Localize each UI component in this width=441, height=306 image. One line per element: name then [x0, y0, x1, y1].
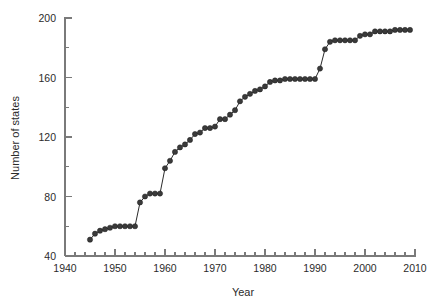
data-point — [257, 87, 262, 92]
data-series-markers — [87, 27, 412, 242]
data-point — [87, 237, 92, 242]
y-tick-label: 200 — [38, 12, 56, 24]
data-point — [137, 200, 142, 205]
data-point — [132, 224, 137, 229]
data-point — [322, 47, 327, 52]
data-series-line — [90, 30, 410, 240]
chart-container: 19401950196019701980199020002010 4080120… — [0, 0, 441, 306]
data-point — [277, 78, 282, 83]
data-point — [222, 117, 227, 122]
data-point — [302, 76, 307, 81]
data-point — [252, 88, 257, 93]
data-point — [102, 227, 107, 232]
x-tick-label: 1950 — [103, 262, 127, 274]
data-point — [312, 76, 317, 81]
data-point — [212, 124, 217, 129]
x-tick-label: 1940 — [53, 262, 77, 274]
x-tick-label: 1990 — [303, 262, 327, 274]
data-point — [92, 231, 97, 236]
data-point — [267, 79, 272, 84]
y-axis-title: Number of states — [9, 96, 21, 180]
data-point — [292, 76, 297, 81]
x-tick-label: 2000 — [353, 262, 377, 274]
x-axis-tick-labels: 19401950196019701980199020002010 — [53, 262, 427, 274]
data-point — [337, 38, 342, 43]
data-point — [197, 130, 202, 135]
data-point — [347, 38, 352, 43]
y-axis-ticks — [65, 18, 72, 256]
data-point — [217, 117, 222, 122]
data-point — [152, 191, 157, 196]
data-point — [237, 99, 242, 104]
data-point — [127, 224, 132, 229]
data-point — [247, 91, 252, 96]
data-point — [357, 33, 362, 38]
data-point — [377, 29, 382, 34]
x-axis-title: Year — [232, 286, 255, 298]
data-point — [192, 131, 197, 136]
y-tick-label: 80 — [44, 191, 56, 203]
data-point — [402, 27, 407, 32]
data-point — [372, 29, 377, 34]
data-point — [262, 84, 267, 89]
data-point — [297, 76, 302, 81]
series-line-path — [90, 30, 410, 240]
x-tick-label: 1970 — [203, 262, 227, 274]
chart-axes — [65, 17, 416, 256]
data-point — [282, 76, 287, 81]
data-point — [342, 38, 347, 43]
data-point — [182, 142, 187, 147]
data-point — [407, 27, 412, 32]
data-point — [122, 224, 127, 229]
data-point — [107, 225, 112, 230]
data-point — [397, 27, 402, 32]
data-point — [187, 137, 192, 142]
data-point — [242, 94, 247, 99]
x-axis-ticks — [65, 249, 415, 256]
data-point — [367, 32, 372, 37]
y-tick-label: 120 — [38, 131, 56, 143]
x-tick-label: 1960 — [153, 262, 177, 274]
data-point — [177, 145, 182, 150]
line-chart: 19401950196019701980199020002010 4080120… — [0, 0, 441, 306]
data-point — [317, 66, 322, 71]
data-point — [382, 29, 387, 34]
data-point — [142, 194, 147, 199]
data-point — [232, 108, 237, 113]
data-point — [162, 166, 167, 171]
y-tick-label: 160 — [38, 72, 56, 84]
data-point — [207, 125, 212, 130]
data-point — [392, 27, 397, 32]
data-point — [112, 224, 117, 229]
y-tick-label: 40 — [44, 250, 56, 262]
y-axis-tick-labels: 4080120160200 — [38, 12, 56, 262]
data-point — [147, 191, 152, 196]
data-point — [332, 38, 337, 43]
data-point — [272, 78, 277, 83]
data-point — [362, 32, 367, 37]
data-point — [352, 38, 357, 43]
data-point — [327, 39, 332, 44]
data-point — [117, 224, 122, 229]
data-point — [287, 76, 292, 81]
data-point — [157, 191, 162, 196]
data-point — [167, 158, 172, 163]
x-tick-label: 2010 — [403, 262, 427, 274]
data-point — [202, 125, 207, 130]
data-point — [172, 149, 177, 154]
x-tick-label: 1980 — [253, 262, 277, 274]
data-point — [227, 112, 232, 117]
data-point — [97, 228, 102, 233]
data-point — [387, 29, 392, 34]
data-point — [307, 76, 312, 81]
